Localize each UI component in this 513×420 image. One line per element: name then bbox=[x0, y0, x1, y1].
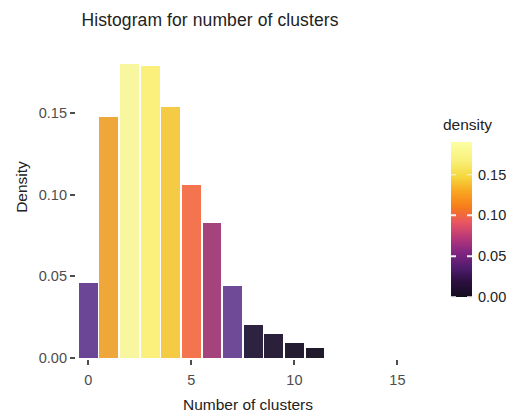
x-tick-label: 5 bbox=[187, 372, 195, 388]
legend-tick-mark bbox=[467, 296, 472, 298]
histogram-bar bbox=[79, 283, 98, 358]
legend-tick-label: 0.05 bbox=[478, 248, 506, 264]
legend-colorbar bbox=[451, 142, 472, 297]
legend-tick-mark bbox=[467, 174, 472, 176]
x-tick-label: 15 bbox=[389, 372, 405, 388]
y-tick-mark bbox=[70, 112, 75, 114]
plot-panel bbox=[78, 48, 418, 358]
histogram-bar bbox=[141, 66, 160, 358]
x-axis-title: Number of clusters bbox=[78, 396, 418, 414]
y-tick-label: 0.00 bbox=[39, 350, 67, 366]
legend-tick-label: 0.00 bbox=[478, 289, 506, 305]
bars-layer bbox=[78, 48, 418, 358]
x-tick-mark bbox=[190, 360, 192, 365]
x-tick-mark bbox=[87, 360, 89, 365]
y-tick-label: 0.15 bbox=[39, 105, 67, 121]
histogram-bar bbox=[203, 223, 222, 358]
histogram-bar bbox=[120, 64, 139, 358]
histogram-bar bbox=[306, 348, 325, 358]
histogram-bar bbox=[244, 325, 263, 358]
legend-tick-label: 0.10 bbox=[478, 207, 506, 223]
y-axis-title: Density bbox=[13, 137, 31, 237]
x-tick-mark bbox=[396, 360, 398, 365]
legend-tick-mark bbox=[467, 255, 472, 257]
legend-tick-mark bbox=[467, 215, 472, 217]
legend-tick-label: 0.15 bbox=[478, 167, 506, 183]
histogram-bar bbox=[161, 107, 180, 358]
y-tick-label: 0.05 bbox=[39, 268, 67, 284]
y-tick-label: 0.10 bbox=[39, 187, 67, 203]
page-title: Histogram for number of clusters bbox=[0, 10, 420, 31]
histogram-bar bbox=[223, 286, 242, 358]
legend-tick-mark bbox=[451, 296, 456, 298]
histogram-bar bbox=[99, 117, 118, 358]
legend-tick-mark bbox=[451, 255, 456, 257]
y-tick-mark bbox=[70, 275, 75, 277]
legend: density 0.000.050.100.15 bbox=[443, 116, 513, 306]
x-tick-mark bbox=[293, 360, 295, 365]
histogram-bar bbox=[264, 334, 283, 358]
x-tick-label: 0 bbox=[84, 372, 92, 388]
histogram-bar bbox=[285, 343, 304, 359]
legend-title: density bbox=[443, 116, 492, 134]
y-tick-mark bbox=[70, 194, 75, 196]
legend-tick-mark bbox=[451, 215, 456, 217]
histogram-figure: Histogram for number of clusters 0.000.0… bbox=[0, 0, 513, 420]
y-tick-mark bbox=[70, 357, 75, 359]
histogram-bar bbox=[182, 185, 201, 358]
x-tick-label: 10 bbox=[286, 372, 302, 388]
legend-tick-mark bbox=[451, 174, 456, 176]
